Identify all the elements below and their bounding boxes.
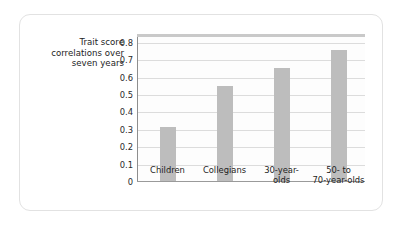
y-axis-caption-line-1: Trait score [14,37,124,48]
x-axis-category-label-line: 70-year-olds [313,176,365,186]
y-axis-tick-label: 0.7 [120,56,133,64]
y-axis-tick-label: 0.3 [120,126,133,134]
plot-top-band [137,34,365,37]
x-axis-category-label-line: Collegians [203,166,246,176]
y-axis-line [137,34,138,182]
bar [331,50,347,181]
y-axis-tick-label: 0.6 [120,73,133,81]
x-axis-category-label: Children [150,166,185,176]
y-axis-tick-label: 0.2 [120,143,133,151]
bar-chart-plot-area: 00.10.20.30.40.50.60.70.8 [137,34,365,182]
y-axis-tick-label: 0.5 [120,91,133,99]
x-axis-category-label-line: Children [150,166,185,176]
figure-card: Trait score correlations over seven year… [19,14,383,211]
x-axis-category-label: 50- to70-year-olds [313,166,365,185]
y-axis-tick-label: 0 [128,178,133,186]
y-axis-tick-label: 0.8 [120,39,133,47]
x-axis-category-label: 30-year-olds [264,166,299,185]
y-axis-tick-label: 0.1 [120,160,133,168]
y-axis-caption-line-3: seven years [14,58,124,69]
x-axis-category-label: Collegians [203,166,246,176]
x-axis-category-label-line: olds [264,176,299,186]
y-axis-caption-line-2: correlations over [14,48,124,59]
y-axis-tick-label: 0.4 [120,108,133,116]
y-axis-caption: Trait score correlations over seven year… [14,37,124,69]
gridline [137,43,365,44]
